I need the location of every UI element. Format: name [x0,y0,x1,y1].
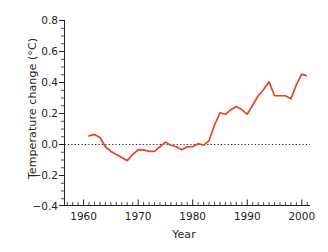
y-major-ticks [59,21,65,206]
y-tick-label: 0.4 [41,76,58,88]
x-tick-label: 1960 [70,210,97,222]
y-tick-label: 0.2 [41,107,58,119]
y-tick-label: 0.8 [41,14,58,26]
x-tick-label: 1990 [234,210,261,222]
y-axis-title: Temperature change (°C) [26,24,39,194]
x-axis-title: Year [64,228,304,241]
x-minor-ticks [67,202,307,206]
x-tick-label: 2000 [288,210,315,222]
chart-canvas: 0.8 0.6 0.4 0.2 0.0 −0.2 −0.4 [0,0,328,252]
x-tick-labels: 19601970198019902000 [70,210,315,222]
x-tick-label: 1980 [179,210,206,222]
x-tick-label: 1970 [125,210,152,222]
y-tick-label: 0.6 [41,45,58,57]
y-tick-label: −0.4 [33,200,59,212]
temperature-change-chart: 0.8 0.6 0.4 0.2 0.0 −0.2 −0.4 [0,0,328,252]
y-tick-label: 0.0 [41,138,58,150]
temperature-series-line [89,74,306,161]
